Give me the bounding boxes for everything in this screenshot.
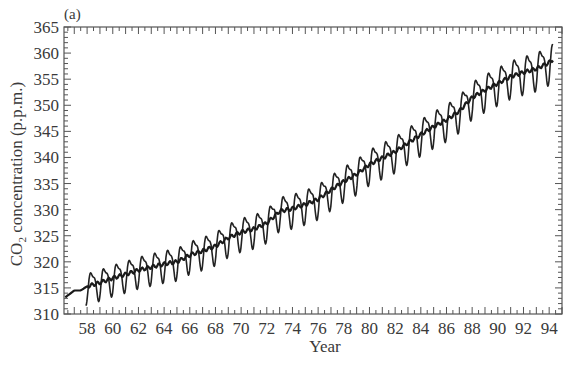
x-tick-label: 74	[284, 319, 302, 338]
x-tick-label: 66	[181, 319, 198, 338]
y-tick-label: 320	[34, 253, 60, 272]
x-tick-label: 82	[387, 319, 404, 338]
x-tick-label: 92	[515, 319, 532, 338]
y-axis-title: CO2 concentration (p.p.m.)	[7, 82, 28, 266]
x-tick-label: 84	[412, 319, 430, 338]
x-tick-label: 88	[464, 319, 481, 338]
x-tick-label: 80	[361, 319, 378, 338]
y-tick-label: 325	[34, 227, 60, 246]
y-axis-tick-labels: 310315320325330335340345350355360365	[34, 18, 60, 324]
y-tick-label: 335	[34, 175, 60, 194]
annual-trend-line	[65, 60, 553, 297]
x-tick-label: 70	[233, 319, 250, 338]
y-tick-label: 340	[34, 148, 60, 167]
y-tick-label: 360	[34, 44, 60, 63]
x-tick-label: 58	[79, 319, 96, 338]
x-tick-label: 90	[489, 319, 506, 338]
x-tick-label: 68	[207, 319, 224, 338]
y-tick-label: 350	[34, 96, 60, 115]
y-tick-label: 345	[34, 122, 60, 141]
x-tick-label: 64	[156, 319, 174, 338]
panel-label: (a)	[64, 6, 81, 23]
y-tick-label: 365	[34, 18, 60, 37]
x-tick-label: 94	[541, 319, 559, 338]
x-tick-label: 72	[258, 319, 275, 338]
x-tick-label: 76	[310, 319, 327, 338]
x-axis-title: Year	[309, 337, 341, 356]
co2-chart: (a) 310315320325330335340345350355360365…	[0, 0, 572, 368]
x-tick-label: 62	[130, 319, 147, 338]
x-axis-tick-labels: 58606264666870727476788082848688909294	[79, 319, 559, 338]
y-tick-label: 315	[34, 279, 60, 298]
y-tick-label: 310	[34, 305, 60, 324]
x-tick-label: 78	[335, 319, 352, 338]
x-tick-label: 86	[438, 319, 455, 338]
y-tick-label: 330	[34, 201, 60, 220]
x-tick-label: 60	[104, 319, 121, 338]
y-tick-label: 355	[34, 70, 60, 89]
